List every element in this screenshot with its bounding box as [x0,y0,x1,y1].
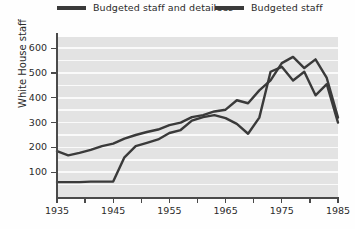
x-tick [141,198,142,203]
x-tick [309,198,310,203]
y-tick [51,172,56,173]
x-tick [337,198,338,203]
legend-label: Budgeted staff and detailees [93,3,233,13]
series-line [57,67,338,182]
x-tick [113,198,114,203]
x-tick-label: 1975 [262,206,302,216]
series-line [57,57,338,155]
x-tick-label: 1945 [93,206,133,216]
y-tick [51,48,56,49]
x-tick [84,198,85,203]
y-tick [51,72,56,73]
chart-root: Budgeted staff and detailees Budgeted st… [0,0,355,229]
x-tick [281,198,282,203]
y-tick [51,97,56,98]
y-tick-label: 100 [7,167,47,176]
y-tick [51,147,56,148]
x-tick [225,198,226,203]
y-axis-title: White House staff [17,4,28,124]
x-tick [169,198,170,203]
legend-swatch-icon [215,6,244,10]
y-tick-label: 200 [7,142,47,151]
legend-item-budgeted-staff-and-detailees: Budgeted staff and detailees [57,3,233,13]
legend-label: Budgeted staff [251,3,323,13]
plot-area [57,37,338,198]
x-tick-label: 1965 [206,206,246,216]
x-tick-label: 1985 [318,206,355,216]
y-axis-line [56,33,58,199]
x-tick [253,198,254,203]
x-tick [197,198,198,203]
y-tick [51,122,56,123]
legend-item-budgeted-staff: Budgeted staff [215,3,323,13]
x-tick-label: 1955 [149,206,189,216]
x-tick [56,198,57,203]
chart-legend: Budgeted staff and detailees Budgeted st… [0,3,355,21]
x-tick-label: 1935 [37,206,77,216]
series-lines [57,37,338,198]
legend-swatch-icon [57,6,86,10]
